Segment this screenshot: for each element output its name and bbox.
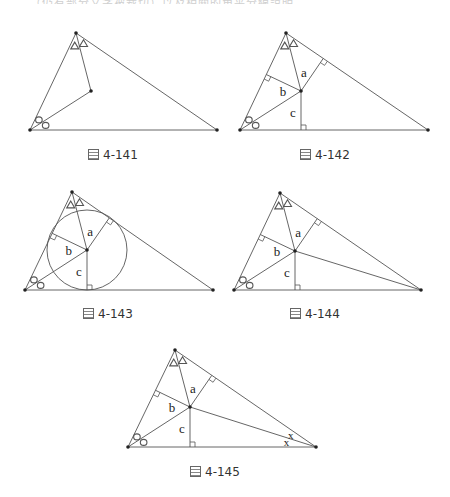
right-angle-icon — [209, 378, 216, 382]
figure-4-141 — [28, 31, 219, 132]
triangle-angle-icon — [179, 357, 187, 364]
label-b: b — [169, 400, 176, 415]
triangle-angle-icon — [281, 42, 289, 49]
circle-angle-icon — [240, 277, 247, 283]
circle-angle-icon — [36, 117, 43, 123]
caption-text: 4-142 — [315, 148, 350, 162]
triangle-angle-icon — [71, 42, 79, 49]
right-angle-icon — [320, 61, 327, 65]
label-a: a — [295, 225, 301, 240]
right-angle-icon — [190, 442, 195, 447]
point-dot — [211, 288, 215, 292]
right-angle-icon — [295, 285, 300, 290]
figure-4-144: abc — [232, 191, 423, 292]
right-angle-icon — [87, 285, 92, 290]
caption-4-141: 4-141 — [88, 148, 138, 162]
zh-char-icon — [300, 149, 311, 160]
point-dot — [426, 128, 430, 132]
caption-4-142: 4-142 — [300, 148, 350, 162]
point-dot — [89, 89, 93, 93]
caption-4-143: 4-143 — [83, 307, 133, 321]
caption-4-144: 4-144 — [290, 307, 340, 321]
triangle-angle-icon — [170, 359, 178, 366]
figure-4-142: abc — [238, 31, 430, 132]
point-dot — [28, 128, 32, 132]
label-b: b — [274, 244, 281, 259]
label-a: a — [301, 65, 307, 80]
circle-angle-icon — [140, 439, 147, 445]
circle-angle-icon — [31, 277, 38, 283]
figure-4-143: abc — [23, 190, 215, 292]
triangle-angle-icon — [284, 200, 292, 207]
geometry-figures: abcabcabcabcxx — [0, 0, 450, 497]
caption-4-145: 4-145 — [190, 465, 240, 479]
label-c: c — [179, 421, 185, 436]
label-b: b — [280, 84, 287, 99]
point-dot — [238, 128, 242, 132]
circle-angle-icon — [252, 122, 259, 128]
point-dot — [284, 31, 288, 35]
circle-angle-icon — [134, 434, 141, 440]
point-dot — [314, 445, 318, 449]
point-dot — [85, 248, 89, 252]
side-bc — [76, 33, 217, 130]
caption-text: 4-145 — [205, 465, 240, 479]
point-dot — [70, 190, 74, 194]
bisector-c — [190, 407, 316, 447]
point-dot — [419, 288, 423, 292]
zh-char-icon — [290, 308, 301, 319]
circle-angle-icon — [42, 122, 49, 128]
label-c: c — [76, 264, 82, 279]
point-dot — [232, 288, 236, 292]
label-b: b — [66, 243, 73, 258]
caption-text: 4-143 — [98, 307, 133, 321]
point-dot — [126, 445, 130, 449]
point-dot — [74, 31, 78, 35]
circle-angle-icon — [246, 117, 253, 123]
triangle-angle-icon — [67, 201, 75, 208]
point-dot — [299, 89, 303, 93]
point-dot — [278, 191, 282, 195]
figure-4-145: abcxx — [126, 348, 318, 449]
triangle-angle-icon — [80, 40, 88, 47]
point-dot — [173, 348, 177, 352]
triangle-angle-icon — [275, 202, 283, 209]
caption-text: 4-141 — [103, 148, 138, 162]
label-c: c — [284, 265, 290, 280]
x-angle-icon: x — [284, 436, 290, 448]
triangle-angle-icon — [76, 199, 84, 206]
point-dot — [215, 128, 219, 132]
point-dot — [188, 405, 192, 409]
bisector-c — [295, 251, 421, 290]
zh-char-icon — [190, 466, 201, 477]
circle-angle-icon — [37, 282, 44, 288]
label-a: a — [87, 224, 93, 239]
side-ab — [128, 350, 175, 447]
triangle-angle-icon — [290, 40, 298, 47]
right-angle-icon — [301, 125, 306, 130]
zh-char-icon — [88, 149, 99, 160]
point-dot — [23, 288, 27, 292]
zh-char-icon — [83, 308, 94, 319]
right-angle-icon — [314, 221, 321, 225]
circle-angle-icon — [246, 282, 253, 288]
caption-text: 4-144 — [305, 307, 340, 321]
point-dot — [293, 249, 297, 253]
label-a: a — [190, 381, 196, 396]
label-c: c — [290, 105, 296, 120]
right-angle-icon — [106, 221, 113, 225]
